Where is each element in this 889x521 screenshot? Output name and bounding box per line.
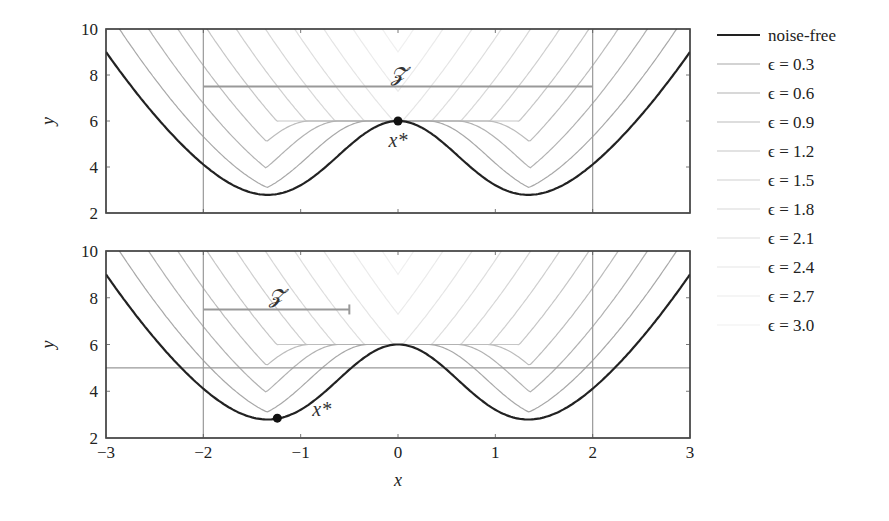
x-tick-label: −2 bbox=[194, 443, 212, 462]
series-line-eps-0.3 bbox=[106, 230, 690, 412]
top-plot-panel: 𝓩x*246810y bbox=[38, 0, 690, 223]
legend-entry-label: ϵ = 1.2 bbox=[768, 142, 814, 161]
y-tick-label: 10 bbox=[81, 20, 98, 39]
optimum-marker-label: x* bbox=[388, 129, 408, 151]
x-axis-label: x bbox=[393, 470, 402, 490]
y-tick-label: 6 bbox=[90, 112, 99, 131]
y-axis-label: y bbox=[38, 117, 58, 127]
legend-entry-label: ϵ = 1.8 bbox=[768, 200, 814, 219]
y-tick-label: 8 bbox=[90, 66, 99, 85]
legend-entry-label: ϵ = 0.6 bbox=[768, 84, 814, 103]
y-tick-label: 2 bbox=[90, 429, 99, 448]
x-tick-label: 2 bbox=[588, 443, 597, 462]
x-tick-label: 3 bbox=[686, 443, 695, 462]
optimum-marker-label: x* bbox=[311, 398, 331, 420]
series-line-eps-3 bbox=[106, 0, 690, 52]
legend-entry-label: ϵ = 2.4 bbox=[768, 258, 815, 277]
x-tick-label: −3 bbox=[97, 443, 115, 462]
series-line-eps-1.8 bbox=[106, 0, 690, 121]
series-line-eps-1.5 bbox=[106, 0, 690, 121]
series-line-eps-2.4 bbox=[106, 0, 690, 121]
legend-entry-label: ϵ = 2.7 bbox=[768, 287, 815, 306]
legend: noise-freeϵ = 0.3ϵ = 0.6ϵ = 0.9ϵ = 1.2ϵ … bbox=[717, 26, 836, 335]
y-tick-label: 2 bbox=[90, 204, 99, 223]
y-tick-label: 4 bbox=[90, 158, 99, 177]
legend-entry-label: ϵ = 1.5 bbox=[768, 171, 814, 190]
y-axis-label: y bbox=[38, 341, 58, 351]
legend-entry-label: noise-free bbox=[768, 26, 836, 45]
series-line-eps-1.2 bbox=[106, 0, 690, 121]
interval-z-label: 𝓩 bbox=[390, 63, 411, 86]
y-tick-label: 8 bbox=[90, 289, 99, 308]
x-tick-label: −1 bbox=[292, 443, 310, 462]
interval-z-label: 𝓩 bbox=[268, 285, 289, 308]
series-line-eps-2.1 bbox=[106, 0, 690, 121]
bottom-plot-panel: 𝓩x*−3−2−10123246810yx bbox=[38, 204, 694, 490]
x-tick-label: 0 bbox=[394, 443, 403, 462]
series-line-noise-free bbox=[106, 274, 690, 419]
legend-entry-label: ϵ = 3.0 bbox=[768, 316, 814, 335]
legend-entry-label: ϵ = 2.1 bbox=[768, 229, 814, 248]
series-line-eps-0.3 bbox=[106, 9, 690, 188]
legend-entry-label: ϵ = 0.3 bbox=[768, 55, 814, 74]
optimum-marker-dot bbox=[394, 117, 403, 126]
figure: 𝓩x*246810y 𝓩x*−3−2−10123246810yx noise-f… bbox=[0, 0, 889, 521]
y-tick-label: 4 bbox=[90, 382, 99, 401]
series-line-eps-2.7 bbox=[106, 204, 690, 314]
series-line-eps-0.9 bbox=[106, 204, 690, 364]
y-tick-label: 6 bbox=[90, 336, 99, 355]
legend-entry-label: ϵ = 0.9 bbox=[768, 113, 814, 132]
y-tick-label: 10 bbox=[81, 242, 98, 261]
plot-area bbox=[106, 204, 690, 438]
series-line-eps-0.6 bbox=[106, 204, 690, 392]
optimum-marker-dot bbox=[273, 414, 282, 423]
x-tick-label: 1 bbox=[491, 443, 500, 462]
series-line-eps-3 bbox=[106, 204, 690, 274]
